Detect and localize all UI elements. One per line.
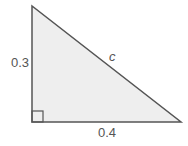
vertical-side-label: 0.3 [11, 55, 29, 70]
horizontal-side-label: 0.4 [98, 125, 116, 140]
triangle-diagram: 0.3 c 0.4 [0, 0, 188, 146]
right-triangle [32, 6, 181, 122]
hypotenuse-label: c [109, 49, 116, 64]
